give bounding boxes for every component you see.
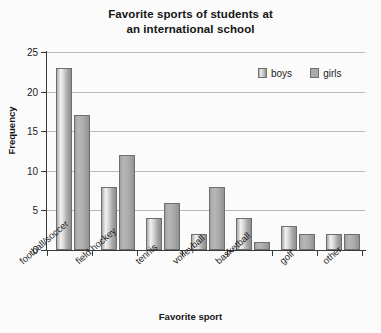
y-tick-label-5: 5 bbox=[18, 205, 38, 216]
x-axis-title: Favorite sport bbox=[0, 311, 381, 322]
legend-entry-boys: boys bbox=[258, 68, 292, 79]
chart-title-line-2: an international school bbox=[0, 22, 381, 37]
chart-title: Favorite sports of students at an intern… bbox=[0, 7, 381, 37]
x-tick-mark-6 bbox=[317, 251, 318, 256]
legend-label-boys: boys bbox=[271, 68, 292, 79]
y-tick-label-15: 15 bbox=[18, 126, 38, 137]
bar-group-tennis bbox=[142, 52, 184, 250]
legend-swatch-girls-icon bbox=[310, 68, 319, 78]
x-tick-mark-7 bbox=[362, 251, 363, 256]
y-tick-label-25: 25 bbox=[18, 47, 38, 58]
chart-legend: boys girls bbox=[258, 66, 341, 80]
legend-label-girls: girls bbox=[323, 68, 341, 79]
x-tick-mark-0 bbox=[47, 251, 48, 256]
bar-group-field-hockey bbox=[97, 52, 139, 250]
y-tick-label-20: 20 bbox=[18, 86, 38, 97]
legend-swatch-boys-icon bbox=[258, 68, 267, 78]
y-tick-label-10: 10 bbox=[18, 165, 38, 176]
bar-group-golf bbox=[277, 52, 319, 250]
y-axis-title: Frequency bbox=[6, 96, 17, 166]
chart-title-line-1: Favorite sports of students at bbox=[0, 7, 381, 22]
y-axis-line bbox=[46, 51, 47, 251]
x-tick-mark-5 bbox=[272, 251, 273, 256]
bar-girls-field-hockey bbox=[119, 155, 135, 250]
bar-group-other bbox=[322, 52, 364, 250]
bar-girls-tennis bbox=[164, 203, 180, 251]
bar-girls-football-soccer bbox=[74, 115, 90, 250]
bar-chart: Favorite sports of students at an intern… bbox=[0, 0, 381, 333]
bar-girls-volleyball bbox=[209, 187, 225, 250]
bar-girls-basketball bbox=[254, 242, 270, 250]
plot-area bbox=[47, 52, 365, 250]
bar-boys-golf bbox=[281, 226, 297, 250]
bar-group-basketball bbox=[232, 52, 274, 250]
legend-entry-girls: girls bbox=[310, 68, 341, 79]
bar-group-volleyball bbox=[187, 52, 229, 250]
bar-girls-other bbox=[344, 234, 360, 250]
bar-girls-golf bbox=[299, 234, 315, 250]
